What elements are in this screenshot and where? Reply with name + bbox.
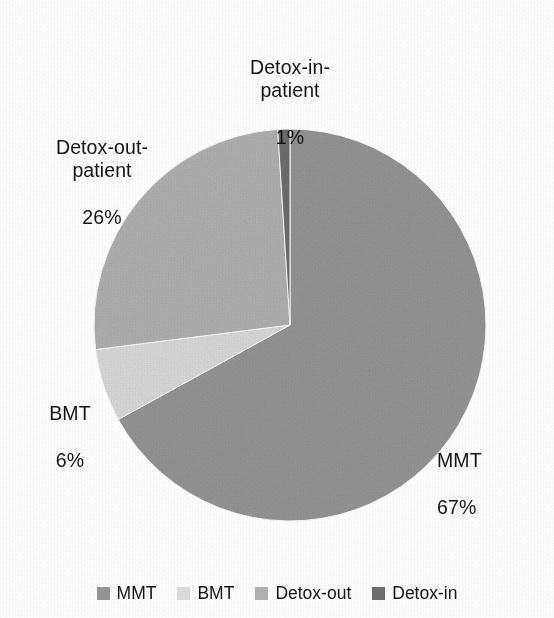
legend-swatch-detox-out — [255, 587, 268, 600]
legend-item-mmt[interactable]: MMT — [97, 584, 157, 603]
slice-callout-detox-out-pct: 26% — [14, 206, 190, 230]
legend-item-detox-in[interactable]: Detox-in — [372, 584, 457, 603]
legend-item-detox-out[interactable]: Detox-out — [255, 584, 351, 603]
legend-swatch-mmt — [97, 587, 110, 600]
slice-callout-bmt-pct: 6% — [20, 449, 120, 473]
slice-callout-detox-in-pct: 1% — [215, 126, 365, 150]
legend-item-bmt[interactable]: BMT — [177, 584, 234, 603]
slice-callout-detox-out: Detox-out- patient 26% — [14, 112, 190, 253]
slice-callout-mmt-name: MMT — [437, 449, 537, 473]
slice-callout-mmt: MMT 67% — [437, 425, 537, 543]
legend-label-mmt: MMT — [117, 584, 157, 603]
slice-callout-bmt: BMT 6% — [20, 378, 120, 496]
legend-label-detox-out: Detox-out — [275, 584, 351, 603]
pie-chart-figure: Detox-in- patient 1% Detox-out- patient … — [0, 0, 554, 618]
slice-callout-bmt-name: BMT — [20, 402, 120, 426]
slice-callout-detox-out-name: Detox-out- patient — [14, 136, 190, 183]
legend-swatch-detox-in — [372, 587, 385, 600]
chart-legend: MMTBMTDetox-outDetox-in — [0, 584, 554, 603]
legend-label-bmt: BMT — [197, 584, 234, 603]
slice-callout-mmt-pct: 67% — [437, 496, 537, 520]
slice-callout-detox-in: Detox-in- patient 1% — [215, 32, 365, 173]
legend-label-detox-in: Detox-in — [392, 584, 457, 603]
legend-swatch-bmt — [177, 587, 190, 600]
slice-callout-detox-in-name: Detox-in- patient — [215, 56, 365, 103]
